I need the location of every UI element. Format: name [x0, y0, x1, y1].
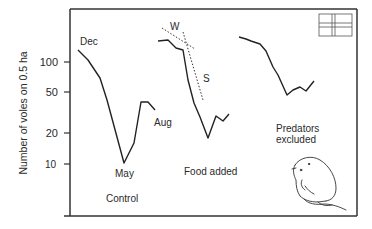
tick-label-20: 20: [46, 127, 58, 139]
label-s: S: [203, 73, 210, 84]
label-food-added: Food added: [184, 166, 237, 177]
label-aug: Aug: [154, 117, 172, 128]
label-may: May: [115, 168, 134, 179]
tick-label-50: 50: [46, 86, 58, 98]
label-excluded: excluded: [276, 134, 316, 145]
y-ticks: [64, 62, 70, 164]
series-predators-excluded-line: [239, 37, 314, 95]
label-predators: Predators: [276, 123, 319, 134]
vole-population-chart: 100 50 20 10 Number of voles on 0.5 ha W…: [0, 0, 372, 229]
label-dec: Dec: [80, 36, 98, 47]
y-axis-label: Number of voles on 0.5 ha: [17, 51, 29, 174]
series-control-line: [78, 50, 155, 163]
label-control: Control: [106, 193, 138, 204]
tick-label-100: 100: [40, 56, 58, 68]
flag-icon: [319, 14, 352, 36]
vole-illustration-icon: [292, 157, 346, 210]
tick-label-10: 10: [45, 159, 57, 170]
label-w: W: [170, 21, 180, 32]
